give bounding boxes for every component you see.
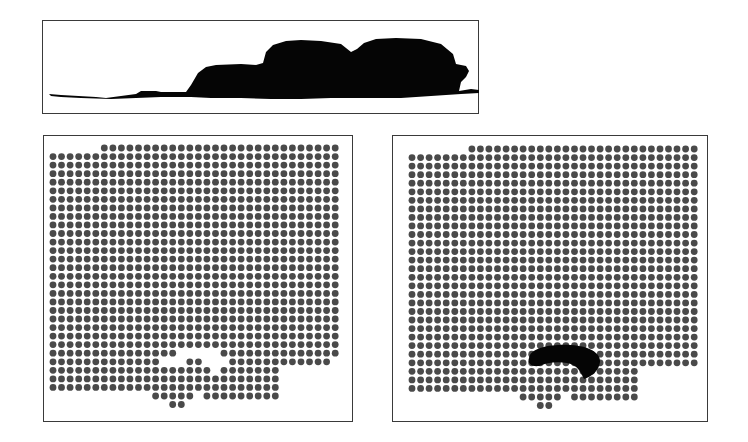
- grid-dot: [588, 257, 595, 264]
- grid-dot: [580, 300, 587, 307]
- grid-dot: [554, 334, 561, 341]
- grid-dot: [451, 317, 458, 324]
- grid-dot: [494, 257, 501, 264]
- grid-dot: [426, 197, 433, 204]
- grid-dot: [657, 359, 664, 366]
- grid-dot: [554, 223, 561, 230]
- grid-dot: [409, 240, 416, 247]
- grid-dot: [477, 377, 484, 384]
- grid-dot: [417, 377, 424, 384]
- grid-dot: [486, 342, 493, 349]
- grid-dot: [657, 291, 664, 298]
- grid-dot: [486, 257, 493, 264]
- grid-dot: [665, 300, 672, 307]
- grid-dot: [614, 282, 621, 289]
- grid-dot: [588, 146, 595, 153]
- grid-dot: [605, 300, 612, 307]
- grid-dot: [469, 163, 476, 170]
- grid-dot: [409, 385, 416, 392]
- grid-dot: [469, 308, 476, 315]
- grid-dot: [486, 154, 493, 161]
- grid-dot: [443, 282, 450, 289]
- grid-dot: [545, 188, 552, 195]
- grid-dot: [434, 317, 441, 324]
- grid-dot: [503, 231, 510, 238]
- grid-dot: [648, 257, 655, 264]
- grid-dot: [486, 265, 493, 272]
- grid-dot: [657, 223, 664, 230]
- grid-dot: [691, 223, 698, 230]
- grid-dot: [409, 197, 416, 204]
- grid-dot: [477, 223, 484, 230]
- grid-dot: [443, 240, 450, 247]
- grid-dot: [494, 171, 501, 178]
- grid-dot: [554, 231, 561, 238]
- grid-dot: [469, 154, 476, 161]
- grid-dot: [691, 180, 698, 187]
- grid-dot: [477, 146, 484, 153]
- grid-dot: [597, 385, 604, 392]
- grid-dot: [588, 334, 595, 341]
- grid-dot: [605, 188, 612, 195]
- grid-dot: [451, 334, 458, 341]
- grid-dot: [614, 197, 621, 204]
- grid-dot: [631, 188, 638, 195]
- grid-dot: [434, 377, 441, 384]
- grid-dot: [631, 257, 638, 264]
- grid-dot: [640, 180, 647, 187]
- grid-dot: [417, 274, 424, 281]
- grid-dot: [434, 351, 441, 358]
- grid-dot: [682, 240, 689, 247]
- grid-dot: [494, 146, 501, 153]
- grid-dot: [571, 171, 578, 178]
- grid-dot: [648, 163, 655, 170]
- grid-dot: [631, 180, 638, 187]
- grid-dot: [537, 334, 544, 341]
- grid-dot: [674, 188, 681, 195]
- grid-dot: [469, 385, 476, 392]
- grid-dot: [614, 265, 621, 272]
- grid-dot: [648, 248, 655, 255]
- grid-dot: [417, 359, 424, 366]
- grid-dot: [503, 223, 510, 230]
- grid-dot: [588, 274, 595, 281]
- grid-dot: [434, 282, 441, 289]
- grid-dot: [554, 291, 561, 298]
- grid-dot: [426, 188, 433, 195]
- grid-dot: [622, 180, 629, 187]
- grid-dot: [554, 308, 561, 315]
- grid-dot: [511, 291, 518, 298]
- grid-dot: [520, 291, 527, 298]
- grid-dot: [417, 342, 424, 349]
- grid-dot: [554, 385, 561, 392]
- grid-dot: [563, 282, 570, 289]
- grid-dot: [631, 334, 638, 341]
- grid-dot: [571, 223, 578, 230]
- grid-dot: [477, 359, 484, 366]
- grid-dot: [528, 171, 535, 178]
- grid-dot: [451, 197, 458, 204]
- grid-dot: [691, 197, 698, 204]
- grid-dot: [537, 214, 544, 221]
- grid-dot: [486, 291, 493, 298]
- grid-dot: [451, 342, 458, 349]
- grid-dot: [691, 231, 698, 238]
- grid-dot: [622, 359, 629, 366]
- grid-dot: [563, 214, 570, 221]
- grid-dot: [528, 240, 535, 247]
- grid-dot: [665, 291, 672, 298]
- grid-dot: [622, 240, 629, 247]
- grid-dot: [648, 300, 655, 307]
- grid-dot: [580, 180, 587, 187]
- grid-dot: [443, 257, 450, 264]
- grid-dot: [511, 317, 518, 324]
- grid-dot: [614, 334, 621, 341]
- grid-dot: [640, 206, 647, 213]
- grid-dot: [494, 342, 501, 349]
- grid-dot: [443, 197, 450, 204]
- grid-dot: [622, 282, 629, 289]
- grid-dot: [657, 342, 664, 349]
- grid-dot: [648, 325, 655, 332]
- grid-dot: [554, 394, 561, 401]
- grid-dot: [537, 394, 544, 401]
